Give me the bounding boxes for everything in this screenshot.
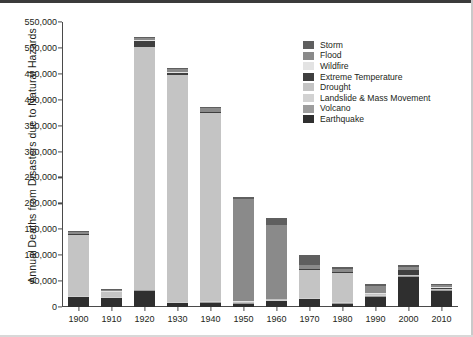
bar-segment <box>167 69 187 72</box>
y-axis-tick-mark <box>58 280 62 281</box>
y-axis-tick-label: 100,000 <box>24 250 62 260</box>
legend-swatch-icon <box>303 105 314 113</box>
bar-segment <box>332 269 352 272</box>
bar-segment <box>266 300 286 301</box>
y-axis-tick-mark <box>58 151 62 152</box>
bar-1980[interactable] <box>332 267 352 307</box>
y-axis-tick-label: 500,000 <box>24 43 62 53</box>
legend-swatch-icon <box>303 83 314 91</box>
legend-label: Wildfire <box>320 62 349 71</box>
y-axis-tick-label: 450,000 <box>24 69 62 79</box>
bar-segment <box>266 218 286 225</box>
x-axis-tick-label: 1940 <box>200 307 220 324</box>
legend-swatch-icon <box>303 94 314 102</box>
bar-segment <box>365 296 385 307</box>
bar-segment <box>332 303 352 304</box>
chart-legend: StormFloodWildfireExtreme TemperatureDro… <box>303 40 430 125</box>
bar-segment <box>101 290 121 292</box>
y-axis-tick-label: 200,000 <box>24 198 62 208</box>
bar-segment <box>68 296 88 297</box>
bar-segment <box>398 275 418 276</box>
y-axis-tick-mark <box>58 21 62 22</box>
y-axis-tick-label: 300,000 <box>24 147 62 157</box>
y-axis-tick-mark <box>58 99 62 100</box>
bar-segment <box>134 290 154 307</box>
bar-1950[interactable] <box>233 197 253 307</box>
bar-segment <box>101 292 121 297</box>
bar-segment <box>299 270 319 298</box>
legend-label: Landslide & Mass Movement <box>320 94 430 103</box>
bar-segment <box>299 299 319 307</box>
legend-item[interactable]: Volcano <box>303 103 430 113</box>
y-axis-tick-mark <box>58 177 62 178</box>
bar-segment <box>101 298 121 307</box>
bar-1920[interactable] <box>134 37 154 307</box>
x-axis-tick-label: 1910 <box>101 307 121 324</box>
legend-swatch-icon <box>303 73 314 81</box>
legend-item[interactable]: Earthquake <box>303 114 430 124</box>
bar-segment <box>431 285 451 287</box>
x-axis-tick-label: 1990 <box>365 307 385 324</box>
bar-segment <box>101 289 121 290</box>
legend-swatch-icon <box>303 41 314 49</box>
bar-segment <box>68 232 88 234</box>
y-axis-tick-mark <box>58 255 62 256</box>
bar-segment <box>233 197 253 199</box>
legend-item[interactable]: Landslide & Mass Movement <box>303 93 430 103</box>
chart-page: Annual Deaths from Disasters due to Natu… <box>0 0 473 337</box>
bar-segment <box>299 298 319 299</box>
bar-segment <box>200 112 220 113</box>
bar-segment <box>266 225 286 299</box>
legend-label: Storm <box>320 41 343 50</box>
legend-label: Volcano <box>320 104 351 113</box>
bar-1970[interactable] <box>299 255 319 307</box>
bar-1960[interactable] <box>266 218 286 307</box>
bar-1910[interactable] <box>101 289 121 307</box>
legend-label: Flood <box>320 51 342 60</box>
bar-1930[interactable] <box>167 68 187 307</box>
bar-segment <box>398 267 418 270</box>
bar-segment <box>299 298 319 299</box>
legend-item[interactable]: Flood <box>303 51 430 61</box>
bar-segment <box>299 269 319 270</box>
legend-item[interactable]: Wildfire <box>303 61 430 71</box>
y-axis-tick-label: 550,000 <box>24 17 62 27</box>
legend-item[interactable]: Extreme Temperature <box>303 72 430 82</box>
x-axis-tick-label: 2010 <box>431 307 451 324</box>
bar-segment <box>200 112 220 301</box>
bar-segment <box>431 290 451 307</box>
bar-segment <box>167 75 187 301</box>
y-axis-tick-mark <box>58 73 62 74</box>
legend-swatch-icon <box>303 62 314 70</box>
legend-item[interactable]: Drought <box>303 82 430 92</box>
bar-segment <box>398 276 418 277</box>
bar-segment <box>266 301 286 307</box>
y-axis-tick-mark <box>58 125 62 126</box>
legend-swatch-icon <box>303 52 314 60</box>
bar-segment <box>365 296 385 297</box>
bar-segment <box>68 234 88 296</box>
bar-segment <box>299 265 319 269</box>
bar-1940[interactable] <box>200 107 220 307</box>
bar-segment <box>365 286 385 293</box>
bar-segment <box>398 270 418 275</box>
bar-segment <box>332 272 352 273</box>
bar-segment <box>134 40 154 47</box>
y-axis-tick-mark <box>58 47 62 48</box>
bar-segment <box>200 302 220 307</box>
bar-2000[interactable] <box>398 265 418 307</box>
bar-1990[interactable] <box>365 284 385 307</box>
bar-segment <box>167 302 187 303</box>
bar-1900[interactable] <box>68 231 88 307</box>
bar-segment <box>398 265 418 267</box>
y-axis-tick-mark <box>58 306 62 307</box>
bar-segment <box>167 72 187 75</box>
x-axis-tick-label: 2000 <box>398 307 418 324</box>
bar-segment <box>365 293 385 294</box>
bar-2010[interactable] <box>431 284 451 307</box>
bar-segment <box>68 231 88 232</box>
bar-segment <box>68 297 88 307</box>
bar-segment <box>233 302 253 303</box>
bar-segment <box>233 303 253 307</box>
legend-item[interactable]: Storm <box>303 40 430 50</box>
